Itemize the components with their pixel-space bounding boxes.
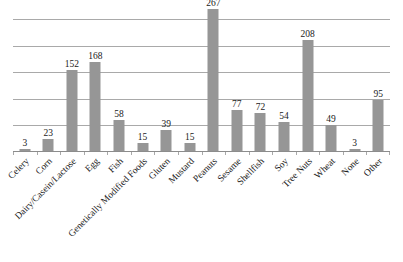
bar-slot: 23 <box>37 19 61 151</box>
bar-chart: 3231521685815391526777725420849395 Celer… <box>0 0 403 262</box>
bar-value-label: 49 <box>326 114 336 124</box>
bar-slot: 72 <box>249 19 273 151</box>
x-axis-label-text: Fish <box>106 156 125 175</box>
bar-value-label: 72 <box>256 102 266 112</box>
bar-value-label: 267 <box>206 0 220 8</box>
x-axis-label-text: None <box>339 156 361 178</box>
x-axis-label-text: Soy <box>273 156 291 174</box>
x-axis-labels: CeleryCornDairy/Casein/LactoseEggFishGen… <box>13 156 390 262</box>
chart-title <box>0 0 403 5</box>
x-axis-label-text: Egg <box>84 156 102 174</box>
bar-slot: 58 <box>107 19 131 151</box>
bar[interactable] <box>302 40 313 151</box>
x-axis-label-text: Celery <box>6 156 31 181</box>
bar-value-label: 23 <box>44 128 54 138</box>
bar[interactable] <box>66 70 77 151</box>
bar-value-label: 95 <box>373 89 383 99</box>
x-axis-tick <box>13 152 14 155</box>
bar-slot: 54 <box>272 19 296 151</box>
x-axis-label-text: Other <box>362 156 384 178</box>
bar-slot: 15 <box>178 19 202 151</box>
bar-value-label: 208 <box>300 29 314 39</box>
bar-value-label: 168 <box>88 51 102 61</box>
bar-value-label: 77 <box>232 99 242 109</box>
bar-value-label: 15 <box>138 132 148 142</box>
bar-slot: 208 <box>296 19 320 151</box>
bar-slot: 152 <box>60 19 84 151</box>
bar[interactable] <box>373 100 384 151</box>
bar-value-label: 3 <box>22 138 27 148</box>
bar-slot: 3 <box>343 19 367 151</box>
bar-slot: 3 <box>13 19 37 151</box>
bar-slot: 77 <box>225 19 249 151</box>
bar-value-label: 54 <box>279 111 289 121</box>
bar-slot: 15 <box>131 19 155 151</box>
bar-slot: 95 <box>366 19 390 151</box>
x-axis-label-text: Corn <box>34 156 55 177</box>
bar-value-label: 152 <box>65 59 79 69</box>
